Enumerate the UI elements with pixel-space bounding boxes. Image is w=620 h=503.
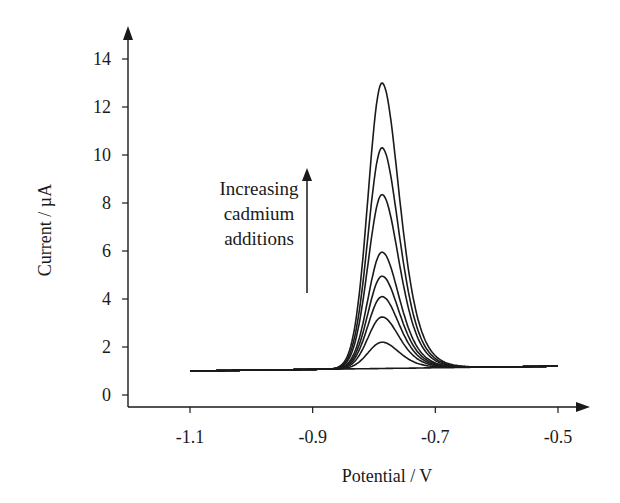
voltammogram-chart: 02468101214 -1.1-0.9-0.7-0.5 Increasing …	[0, 0, 620, 503]
y-tick-label: 6	[102, 241, 111, 261]
y-tick-label: 4	[102, 289, 111, 309]
annotation-line-3: additions	[224, 228, 294, 249]
x-axis-title: Potential / V	[342, 466, 433, 486]
x-tick-label: -1.1	[176, 427, 205, 447]
y-tick-label: 14	[93, 49, 111, 69]
curve-addition-5	[190, 252, 558, 371]
y-tick-label: 12	[93, 97, 111, 117]
annotation-line-1: Increasing	[219, 178, 299, 199]
y-axis-title: Current / µA	[35, 184, 55, 276]
curve-addition-2	[190, 317, 558, 371]
y-tick-label: 10	[93, 145, 111, 165]
arrowhead-icon	[302, 168, 312, 181]
y-tick-label: 0	[102, 385, 111, 405]
y-tick-label: 8	[102, 193, 111, 213]
x-axis: -1.1-0.9-0.7-0.5	[128, 402, 590, 447]
annotation: Increasing cadmium additions	[219, 168, 312, 293]
annotation-line-2: cadmium	[224, 203, 295, 224]
x-tick-label: -0.7	[421, 427, 450, 447]
y-axis-arrow-icon	[123, 26, 133, 40]
x-tick-label: -0.5	[544, 427, 573, 447]
curve-addition-3	[190, 297, 558, 371]
y-axis: 02468101214	[93, 26, 133, 407]
x-axis-arrow-icon	[576, 402, 590, 412]
x-tick-label: -0.9	[298, 427, 327, 447]
y-tick-label: 2	[102, 337, 111, 357]
